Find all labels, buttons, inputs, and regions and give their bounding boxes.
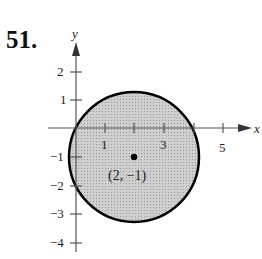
y-axis-arrow-icon [72,42,80,56]
x-tick-label-1: 1 [101,137,108,152]
x-axis-label: x [253,121,260,136]
y-axis-label: y [70,26,78,41]
circle-graph: x y 1 3 5 2 1 −1 −2 −3 −4 (2, −1) [0,0,262,259]
y-tick-label-neg2: −2 [50,178,64,193]
x-axis-arrow-icon [238,124,252,132]
center-point [131,154,137,160]
x-tick-label-5: 5 [219,140,226,155]
y-tick-label-neg4: −4 [50,235,64,250]
y-tick-label-neg1: −1 [50,149,64,164]
y-tick-label-2: 2 [57,64,64,79]
x-tick-label-3: 3 [160,137,167,152]
center-point-label: (2, −1) [108,168,147,184]
y-tick-label-1: 1 [60,92,67,107]
y-tick-label-neg3: −3 [50,206,64,221]
